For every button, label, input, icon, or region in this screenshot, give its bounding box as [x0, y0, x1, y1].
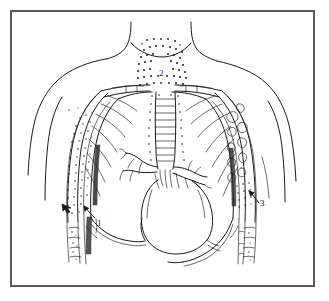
annotation-2-label: 2	[159, 68, 164, 78]
figure-root: 1 2 3	[0, 0, 329, 301]
annotation-3: 3	[249, 191, 265, 208]
annotation-3-label: 3	[260, 198, 265, 208]
annotation-1-label: 1	[97, 218, 102, 228]
neck-emphysema-stipple	[137, 38, 187, 86]
chest-anatomy-illustration: 1 2 3	[0, 0, 329, 301]
heart-silhouette	[141, 180, 213, 254]
torso-outline	[28, 22, 296, 202]
trachea	[155, 92, 176, 169]
mediastinal-stipple	[148, 94, 185, 161]
annotation-2: 2	[159, 68, 164, 78]
diaphragm	[86, 218, 238, 266]
